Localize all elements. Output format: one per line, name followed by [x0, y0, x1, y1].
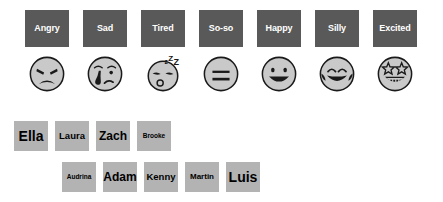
name-chip-zach[interactable]: Zach	[96, 121, 130, 151]
mood-chip-so-so[interactable]: So-so	[199, 10, 243, 47]
laughing-face-icon	[318, 55, 356, 93]
name-chip-kenny[interactable]: Kenny	[144, 162, 178, 192]
name-chip-brooke[interactable]: Brooke	[137, 121, 171, 151]
crying-face-icon	[86, 55, 124, 93]
name-chip-label: Martin	[190, 173, 214, 181]
name-chip-label: Adam	[103, 171, 136, 183]
mood-cell-tired[interactable]: Tired z Z Z	[141, 10, 185, 93]
name-chip-label: Zach	[99, 130, 127, 142]
mood-and-name-board: Angry Sad Tired	[0, 0, 443, 202]
name-chip-ella[interactable]: Ella	[14, 121, 48, 151]
mood-cell-angry[interactable]: Angry	[25, 10, 69, 93]
neutral-face-icon	[202, 55, 240, 93]
mood-chip-silly[interactable]: Silly	[315, 10, 359, 47]
mood-cell-excited[interactable]: Excited	[373, 10, 417, 93]
mood-cell-so-so[interactable]: So-so	[199, 10, 243, 93]
name-chip-label: Laura	[59, 131, 85, 141]
name-chip-label: Luis	[229, 170, 258, 184]
name-chip-adam[interactable]: Adam	[103, 162, 137, 192]
mood-chip-happy[interactable]: Happy	[257, 10, 301, 47]
mood-chip-label: So-so	[209, 24, 234, 33]
mood-chip-label: Happy	[265, 24, 292, 33]
mood-cell-sad[interactable]: Sad	[83, 10, 127, 93]
name-chip-laura[interactable]: Laura	[55, 121, 89, 151]
name-chip-row-2: Audrina Adam Kenny Martin Luis	[62, 162, 260, 192]
name-chip-label: Audrina	[67, 174, 92, 181]
mood-chip-angry[interactable]: Angry	[25, 10, 69, 47]
name-chip-label: Kenny	[146, 172, 175, 182]
svg-text:Z: Z	[173, 57, 179, 67]
svg-text:Z: Z	[168, 55, 173, 63]
mood-chip-label: Tired	[152, 24, 173, 33]
mood-selector-row: Angry Sad Tired	[25, 10, 417, 93]
mood-chip-excited[interactable]: Excited	[373, 10, 417, 47]
name-chip-label: Ella	[19, 129, 44, 143]
mood-chip-sad[interactable]: Sad	[83, 10, 127, 47]
mood-cell-happy[interactable]: Happy	[257, 10, 301, 93]
angry-face-icon	[28, 55, 66, 93]
sleepy-face-icon: z Z Z	[144, 55, 182, 93]
name-chip-row-1: Ella Laura Zach Brooke	[14, 121, 171, 151]
mood-chip-label: Silly	[328, 24, 346, 33]
name-chip-label: Brooke	[143, 133, 165, 140]
mood-chip-label: Excited	[379, 24, 410, 33]
name-chip-luis[interactable]: Luis	[226, 162, 260, 192]
smiling-face-icon	[260, 55, 298, 93]
name-chip-audrina[interactable]: Audrina	[62, 162, 96, 192]
mood-cell-silly[interactable]: Silly	[315, 10, 359, 93]
star-struck-face-icon	[376, 55, 414, 93]
mood-chip-tired[interactable]: Tired	[141, 10, 185, 47]
name-chip-martin[interactable]: Martin	[185, 162, 219, 192]
mood-chip-label: Sad	[97, 24, 113, 33]
mood-chip-label: Angry	[34, 24, 60, 33]
